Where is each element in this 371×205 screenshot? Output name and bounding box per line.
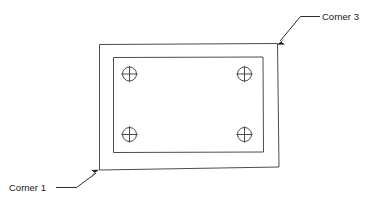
callout-corner-1-label: Corner 1 bbox=[9, 182, 46, 193]
callout-corner-3-leader bbox=[277, 17, 320, 45]
diagram-canvas: Corner 3 Corner 1 bbox=[0, 0, 371, 205]
fastener-top-left-icon bbox=[121, 66, 137, 82]
callout-corner-1-arrowhead bbox=[91, 170, 99, 176]
fastener-bottom-right-icon bbox=[236, 126, 252, 142]
callout-corner-3-label: Corner 3 bbox=[322, 11, 359, 22]
plate-outer-outline bbox=[100, 44, 280, 171]
fastener-top-right-icon bbox=[236, 66, 252, 82]
fastener-bottom-left-icon bbox=[121, 126, 137, 142]
corner-callout-diagram: Corner 3 Corner 1 bbox=[0, 0, 371, 205]
callout-corner-1-leader bbox=[57, 170, 100, 188]
